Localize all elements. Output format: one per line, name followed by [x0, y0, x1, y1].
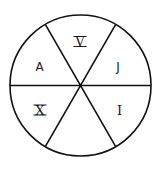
sector-label-upper-right: J	[115, 60, 120, 74]
sector-label-lower-right: I	[117, 103, 122, 118]
sector-label-upper-left: A	[35, 60, 44, 74]
center-point	[79, 84, 83, 88]
sector-circle-diagram: V J I X A	[0, 0, 161, 169]
